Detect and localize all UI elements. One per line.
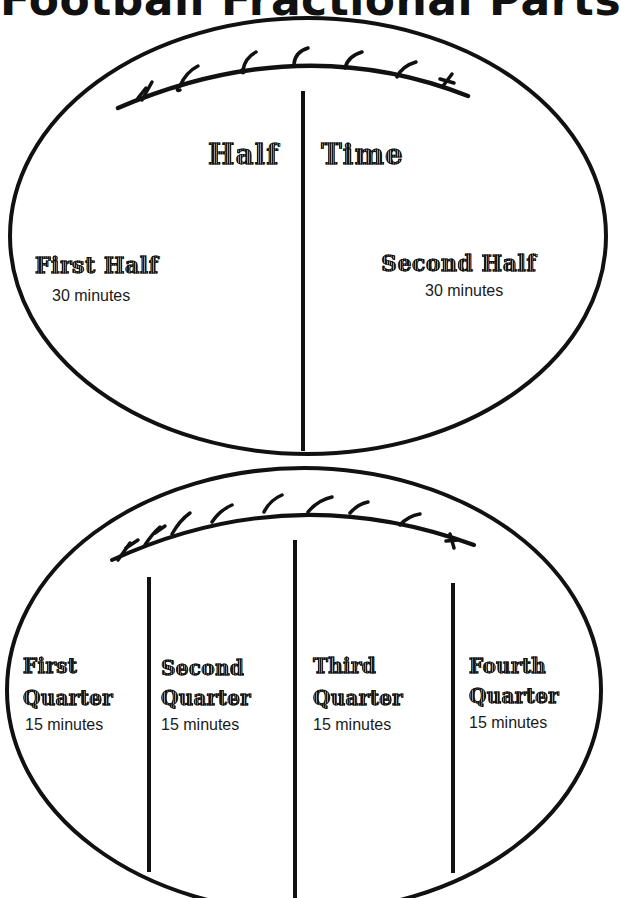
first-quarter-label-line1: First <box>23 656 77 676</box>
fourth-quarter-label-line1: Fourth <box>469 656 546 676</box>
football-outline-bottom <box>7 468 601 898</box>
first-quarter-duration: 15 minutes <box>25 717 103 733</box>
first-quarter-label-line2: Quarter <box>23 688 113 708</box>
quarters-football <box>7 468 601 898</box>
second-half-label: Second Half <box>381 252 536 274</box>
football-outline-top <box>10 18 606 454</box>
lace-stitches-top <box>138 48 454 100</box>
fourth-quarter-label-line2: Quarter <box>469 686 559 706</box>
second-quarter-duration: 15 minutes <box>161 717 239 733</box>
second-quarter-label-line2: Quarter <box>161 688 251 708</box>
halves-football <box>10 18 606 454</box>
laces-seam-top <box>118 66 468 108</box>
first-half-label: First Half <box>35 254 159 276</box>
halftime-label-left: Half <box>208 141 279 169</box>
second-half-duration: 30 minutes <box>425 283 503 299</box>
fourth-quarter-duration: 15 minutes <box>469 715 547 731</box>
halftime-label-right: Time <box>321 141 404 169</box>
first-half-duration: 30 minutes <box>52 288 130 304</box>
second-quarter-label-line1: Second <box>161 658 244 678</box>
third-quarter-duration: 15 minutes <box>313 717 391 733</box>
third-quarter-label-line2: Quarter <box>313 688 403 708</box>
third-quarter-label-line1: Third <box>313 656 376 676</box>
